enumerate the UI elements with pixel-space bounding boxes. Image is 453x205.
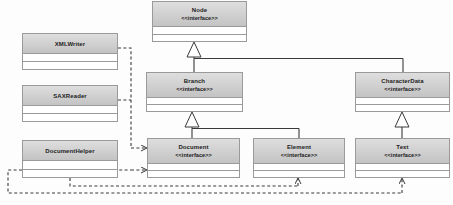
- class-attributes-xmlwriter: [23, 54, 117, 62]
- class-header-saxreader: SAXReader: [23, 86, 117, 106]
- uml-class-diagram: XMLWriter SAXReader DocumentHelper Node …: [0, 0, 453, 205]
- class-attributes-document: [148, 164, 239, 171]
- class-header-xmlwriter: XMLWriter: [23, 34, 117, 54]
- class-box-node[interactable]: Node <<interface>>: [152, 1, 247, 42]
- class-operations-saxreader: [23, 114, 117, 121]
- class-name-documenthelper: DocumentHelper: [45, 147, 94, 155]
- class-stereotype-text: <<interface>>: [384, 151, 420, 159]
- generalization-to-branch: [185, 112, 299, 138]
- class-box-xmlwriter[interactable]: XMLWriter: [22, 33, 118, 70]
- class-box-characterdata[interactable]: CharacterData <<interface>>: [355, 72, 450, 112]
- class-name-text: Text: [396, 143, 408, 151]
- class-header-branch: Branch <<interface>>: [147, 73, 242, 98]
- class-header-node: Node <<interface>>: [153, 2, 246, 27]
- class-attributes-documenthelper: [23, 161, 117, 170]
- class-header-document: Document <<interface>>: [148, 139, 239, 164]
- class-attributes-characterdata: [356, 98, 449, 105]
- class-stereotype-element: <<interface>>: [281, 151, 317, 159]
- generalization-to-node: [187, 42, 403, 72]
- dependency-helper-to-element: [70, 178, 298, 186]
- class-operations-documenthelper: [23, 170, 117, 178]
- class-name-branch: Branch: [184, 77, 205, 85]
- class-name-characterdata: CharacterData: [381, 77, 423, 85]
- class-box-text[interactable]: Text <<interface>>: [355, 138, 450, 178]
- class-attributes-branch: [147, 98, 242, 105]
- class-attributes-element: [254, 164, 344, 171]
- class-operations-element: [254, 171, 344, 177]
- class-box-saxreader[interactable]: SAXReader: [22, 85, 118, 122]
- class-header-element: Element <<interface>>: [254, 139, 344, 164]
- class-box-element[interactable]: Element <<interface>>: [253, 138, 345, 178]
- class-operations-branch: [147, 105, 242, 111]
- class-name-document: Document: [178, 143, 208, 151]
- class-header-text: Text <<interface>>: [356, 139, 449, 164]
- class-operations-document: [148, 171, 239, 177]
- dependency-writers-to-document: [118, 48, 147, 148]
- class-attributes-saxreader: [23, 106, 117, 114]
- class-box-documenthelper[interactable]: DocumentHelper: [22, 140, 118, 178]
- generalization-to-characterdata: [395, 112, 409, 138]
- class-stereotype-characterdata: <<interface>>: [384, 85, 420, 93]
- class-stereotype-branch: <<interface>>: [176, 85, 212, 93]
- class-operations-characterdata: [356, 105, 449, 111]
- class-attributes-node: [153, 27, 246, 35]
- class-header-documenthelper: DocumentHelper: [23, 141, 117, 161]
- class-box-branch[interactable]: Branch <<interface>>: [146, 72, 243, 112]
- class-operations-node: [153, 35, 246, 42]
- class-operations-text: [356, 171, 449, 177]
- class-attributes-text: [356, 164, 449, 171]
- class-name-node: Node: [192, 6, 207, 14]
- class-stereotype-document: <<interface>>: [175, 151, 211, 159]
- class-stereotype-node: <<interface>>: [181, 14, 217, 22]
- class-operations-xmlwriter: [23, 62, 117, 69]
- class-box-document[interactable]: Document <<interface>>: [147, 138, 240, 178]
- class-name-saxreader: SAXReader: [53, 92, 87, 100]
- class-name-element: Element: [287, 143, 311, 151]
- class-name-xmlwriter: XMLWriter: [55, 40, 85, 48]
- class-header-characterdata: CharacterData <<interface>>: [356, 73, 449, 98]
